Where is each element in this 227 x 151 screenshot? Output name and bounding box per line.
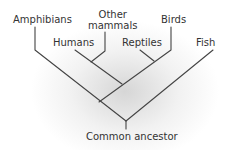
- branch-reptiles: [140, 50, 154, 61]
- branch-fish: [126, 50, 213, 121]
- label-fish: Fish: [196, 37, 215, 48]
- label-birds: Birds: [161, 14, 186, 25]
- label-humans: Humans: [53, 37, 94, 48]
- label-other-mammals: Other mammals: [88, 9, 137, 31]
- label-other-mammals-line1: Other: [88, 9, 137, 20]
- label-other-mammals-line2: mammals: [88, 20, 137, 31]
- cladogram-diagram: Amphibians Other mammals Humans Reptiles…: [0, 0, 227, 151]
- branch-humans: [75, 50, 122, 84]
- label-amphibians: Amphibians: [13, 14, 72, 25]
- label-common-ancestor: Common ancestor: [86, 131, 178, 142]
- label-reptiles: Reptiles: [122, 37, 162, 48]
